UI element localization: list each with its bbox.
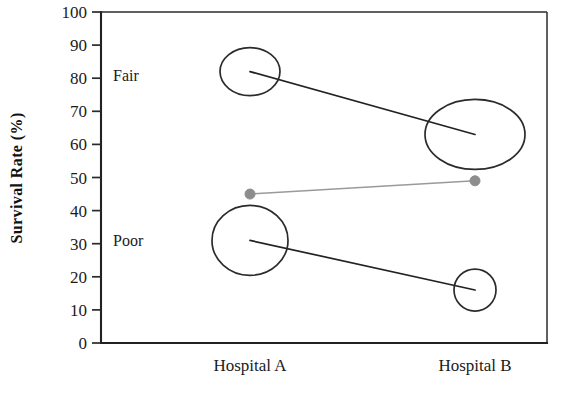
- series-line-fair: [250, 72, 475, 135]
- in-plot-group-labels: FairPoor: [113, 67, 144, 250]
- y-axis-ticks: [92, 12, 101, 343]
- series-markers: [212, 48, 525, 311]
- x-category-label-2: Hospital B: [438, 356, 511, 375]
- y-tick-label: 20: [70, 268, 87, 287]
- y-tick-label: 50: [70, 169, 87, 188]
- y-tick-label: 40: [70, 202, 87, 221]
- y-tick-label: 80: [70, 69, 87, 88]
- series-line-middle: [250, 181, 475, 194]
- y-tick-label: 60: [70, 135, 87, 154]
- chart-container: 0102030405060708090100 FairPoor Hospital…: [0, 0, 564, 402]
- plot-frame: [101, 12, 547, 343]
- y-axis-title: Survival Rate (%): [8, 112, 26, 243]
- data-point-middle-0[interactable]: [245, 189, 255, 199]
- data-point-middle-1[interactable]: [470, 176, 480, 186]
- series-line-poor: [250, 240, 475, 290]
- y-tick-label: 0: [79, 334, 88, 353]
- y-tick-label: 70: [70, 102, 87, 121]
- x-category-label-1: Hospital A: [213, 356, 287, 375]
- x-axis-category-labels: Hospital AHospital B: [213, 356, 511, 375]
- y-tick-label: 30: [70, 235, 87, 254]
- group-label-poor: Poor: [113, 232, 144, 249]
- y-axis-tick-labels: 0102030405060708090100: [62, 3, 88, 353]
- y-axis-title-group: Survival Rate (%): [8, 112, 26, 243]
- group-label-fair: Fair: [113, 67, 139, 84]
- y-tick-label: 100: [62, 3, 88, 22]
- survival-rate-chart: 0102030405060708090100 FairPoor Hospital…: [0, 0, 564, 402]
- y-tick-label: 90: [70, 36, 87, 55]
- y-tick-label: 10: [70, 301, 87, 320]
